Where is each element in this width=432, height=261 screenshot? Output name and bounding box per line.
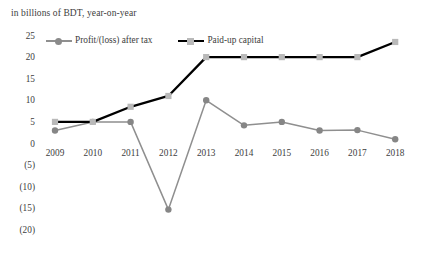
data-point[interactable]	[165, 206, 171, 212]
data-point[interactable]	[279, 54, 285, 60]
data-point[interactable]	[90, 119, 96, 125]
data-point[interactable]	[241, 122, 247, 128]
series-profit-after-tax	[52, 97, 399, 213]
data-point[interactable]	[203, 97, 209, 103]
data-point[interactable]	[392, 136, 398, 142]
data-point[interactable]	[52, 119, 58, 125]
data-point[interactable]	[127, 119, 133, 125]
series-line	[55, 42, 395, 122]
data-point[interactable]	[241, 54, 247, 60]
data-point[interactable]	[392, 39, 398, 45]
plot-area	[0, 0, 432, 261]
data-point[interactable]	[279, 119, 285, 125]
data-point[interactable]	[316, 127, 322, 133]
chart-container: in billions of BDT, year-on-year Profit/…	[0, 0, 432, 261]
data-point[interactable]	[52, 127, 58, 133]
data-point[interactable]	[165, 93, 171, 99]
data-point[interactable]	[203, 54, 209, 60]
data-point[interactable]	[317, 54, 323, 60]
data-point[interactable]	[354, 54, 360, 60]
data-point[interactable]	[128, 104, 134, 110]
data-point[interactable]	[354, 127, 360, 133]
